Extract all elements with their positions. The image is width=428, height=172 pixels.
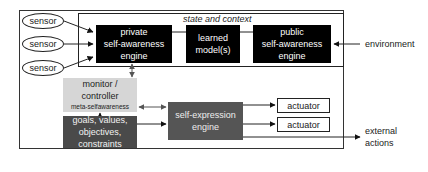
sensor-label: sensor — [29, 39, 56, 49]
public-line-3: engine — [253, 50, 331, 62]
actuator-box: actuator — [277, 98, 330, 113]
private-line-3: engine — [96, 50, 172, 62]
goals-line-2: objectives, — [63, 126, 137, 138]
sensor-node: sensor — [22, 13, 64, 29]
sensor-label: sensor — [29, 63, 56, 73]
monitor-line-1: monitor / — [63, 78, 137, 90]
learned-line-2: model(s) — [186, 44, 240, 56]
selfexp-line-2: engine — [168, 121, 243, 133]
external-line-1: external — [365, 125, 397, 137]
self-expression-engine: self-expression engine — [168, 102, 243, 140]
goals-values-box: goals, values, objectives, constraints — [63, 116, 137, 148]
monitor-line-2: controller — [63, 90, 137, 102]
external-line-2: actions — [365, 137, 397, 149]
environment-label: environment — [365, 38, 415, 50]
public-line-2: self-awareness — [253, 38, 331, 50]
external-actions-label: external actions — [365, 125, 397, 149]
actuator-label: actuator — [287, 101, 320, 111]
private-line-1: private — [96, 26, 172, 38]
learned-line-1: learned — [186, 32, 240, 44]
sensor-label: sensor — [29, 16, 56, 26]
public-line-1: public — [253, 26, 331, 38]
private-line-2: self-awareness — [96, 38, 172, 50]
monitor-controller: monitor / controller meta-selfawareness — [63, 78, 137, 112]
selfexp-line-1: self-expression — [168, 109, 243, 121]
sensor-node: sensor — [22, 60, 64, 76]
sensor-node: sensor — [22, 36, 64, 52]
goals-line-1: goals, values, — [63, 114, 137, 126]
meta-selfawareness-label: meta-selfawareness — [63, 102, 137, 112]
goals-line-3: constraints — [63, 138, 137, 150]
actuator-label: actuator — [287, 120, 320, 130]
public-self-awareness-engine: public self-awareness engine — [253, 25, 331, 63]
learned-models: learned model(s) — [186, 25, 240, 63]
private-self-awareness-engine: private self-awareness engine — [96, 25, 172, 63]
actuator-box: actuator — [277, 117, 330, 132]
